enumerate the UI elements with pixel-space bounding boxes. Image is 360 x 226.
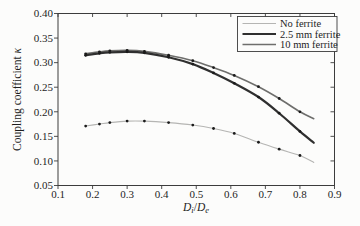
- data-point-marker-no-ferrite: [233, 132, 236, 135]
- data-point-marker-2-5-mm-ferrite: [84, 54, 87, 57]
- data-point-marker-10-mm-ferrite: [233, 74, 236, 77]
- x-tick-label: 0.4: [155, 188, 169, 200]
- data-point-marker-2-5-mm-ferrite: [167, 56, 170, 59]
- legend-label-10mm-ferrite: 10 mm ferrite: [280, 39, 338, 50]
- data-point-marker-2-5-mm-ferrite: [212, 72, 215, 75]
- data-point-marker-no-ferrite: [191, 124, 194, 127]
- series-line-no-ferrite: [86, 121, 314, 162]
- series-line-10-mm-ferrite: [86, 50, 314, 118]
- y-axis-label-text: Coupling coefficient: [11, 54, 24, 152]
- data-point-marker-10-mm-ferrite: [191, 59, 194, 62]
- data-point-marker-2-5-mm-ferrite: [143, 51, 146, 54]
- x-tick-label: 0.9: [328, 188, 342, 200]
- data-point-marker-2-5-mm-ferrite: [191, 63, 194, 66]
- y-tick-label: 0.40: [34, 7, 54, 19]
- kappa-symbol: κ: [11, 48, 23, 54]
- data-point-marker-10-mm-ferrite: [257, 85, 260, 88]
- chart-figure: 0.10.20.30.40.50.60.70.80.90.050.100.150…: [0, 0, 360, 226]
- data-point-marker-2-5-mm-ferrite: [257, 96, 260, 99]
- data-point-marker-10-mm-ferrite: [299, 110, 302, 113]
- data-point-marker-no-ferrite: [299, 154, 302, 157]
- y-tick-label: 0.30: [34, 56, 54, 68]
- data-point-marker-no-ferrite: [212, 127, 215, 130]
- legend: No ferrite 2.5 mm ferrite 10 mm ferrite: [238, 17, 341, 52]
- x-tick-label: 0.5: [189, 188, 203, 200]
- data-point-marker-10-mm-ferrite: [278, 97, 281, 100]
- legend-label-no-ferrite: No ferrite: [280, 18, 321, 29]
- y-tick-label: 0.15: [34, 130, 54, 142]
- y-tick-label: 0.10: [34, 155, 54, 167]
- data-point-marker-no-ferrite: [98, 123, 101, 126]
- data-point-marker-2-5-mm-ferrite: [278, 112, 281, 115]
- data-point-marker-no-ferrite: [278, 148, 281, 151]
- x-label-sub-e: e: [205, 205, 209, 215]
- data-point-marker-no-ferrite: [143, 120, 146, 123]
- y-tick-label: 0.05: [34, 179, 54, 191]
- y-axis-label: Coupling coefficient κ: [11, 48, 24, 152]
- x-tick-label: 0.8: [293, 188, 307, 200]
- data-point-marker-no-ferrite: [84, 125, 87, 128]
- data-point-marker-2-5-mm-ferrite: [299, 130, 302, 133]
- x-tick-label: 0.2: [86, 188, 100, 200]
- data-point-marker-2-5-mm-ferrite: [98, 52, 101, 55]
- x-tick-label: 0.6: [224, 188, 238, 200]
- data-point-marker-no-ferrite: [108, 121, 111, 124]
- data-point-marker-10-mm-ferrite: [212, 66, 215, 69]
- data-point-marker-no-ferrite: [167, 121, 170, 124]
- x-tick-label: 0.7: [259, 188, 273, 200]
- x-tick-label: 0.1: [51, 188, 65, 200]
- data-point-marker-2-5-mm-ferrite: [126, 50, 129, 53]
- data-point-marker-no-ferrite: [257, 141, 260, 144]
- data-point-marker-2-5-mm-ferrite: [233, 82, 236, 85]
- data-point-marker-2-5-mm-ferrite: [108, 51, 111, 54]
- data-point-marker-no-ferrite: [126, 120, 129, 123]
- x-axis-label: Di/De: [182, 201, 209, 216]
- y-tick-label: 0.20: [34, 106, 54, 118]
- x-tick-label: 0.3: [120, 188, 134, 200]
- y-tick-label: 0.25: [34, 81, 54, 93]
- y-tick-label: 0.35: [34, 32, 54, 44]
- legend-label-2-5mm-ferrite: 2.5 mm ferrite: [280, 29, 341, 40]
